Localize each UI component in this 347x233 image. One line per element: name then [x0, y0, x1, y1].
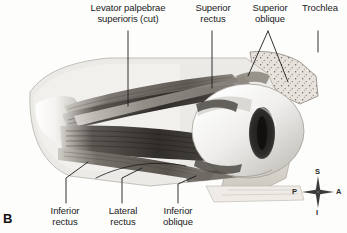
compass-label-superior: S	[315, 167, 320, 176]
label-levator-palpebrae-superioris: Levator palpebrae superioris (cut)	[73, 3, 183, 24]
label-superior-oblique: Superior oblique	[243, 3, 297, 24]
compass-label-inferior: I	[316, 208, 318, 217]
label-inferior-oblique: Inferior oblique	[152, 206, 204, 227]
anatomy-figure: Levator palpebrae superioris (cut) Super…	[0, 0, 347, 233]
pupil	[257, 116, 267, 150]
compass-label-posterior: P	[292, 187, 297, 196]
compass-label-anterior: A	[336, 187, 341, 196]
label-inferior-rectus: Inferior rectus	[40, 206, 90, 227]
eyeball-group	[192, 84, 304, 178]
label-lateral-rectus: Lateral rectus	[98, 206, 148, 227]
panel-letter-b: B	[3, 211, 12, 226]
label-trochlea: Trochlea	[295, 3, 345, 14]
label-superior-rectus: Superior rectus	[185, 3, 241, 24]
extraocular-muscles-illustration	[0, 0, 347, 233]
